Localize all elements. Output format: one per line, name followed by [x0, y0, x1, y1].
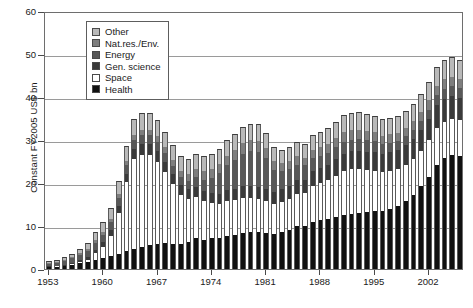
bar-segment: [302, 193, 308, 226]
bar-segment: [217, 149, 223, 164]
bar: [162, 132, 168, 269]
bar-segment: [310, 171, 316, 186]
bar-segment: [318, 168, 324, 183]
bar-segment: [193, 197, 199, 238]
bar-segment: [310, 150, 316, 158]
legend-swatch-icon: [92, 51, 100, 59]
bar: [147, 113, 153, 269]
bar-segment: [380, 119, 386, 135]
y-tick-label: 40: [0, 92, 36, 103]
bar-segment: [356, 112, 362, 130]
bar-segment: [263, 158, 269, 189]
bar-segment: [364, 152, 370, 170]
bar-segment: [186, 181, 192, 189]
bar-segment: [287, 169, 293, 185]
bar-segment: [449, 77, 455, 86]
x-tick-mark: [48, 270, 49, 275]
bar-segment: [147, 155, 153, 245]
bar-segment: [426, 110, 432, 119]
bar-segment: [434, 95, 440, 105]
bar-segment: [256, 152, 262, 187]
bar: [62, 257, 68, 269]
bar-segment: [418, 112, 424, 121]
bar: [449, 57, 455, 269]
bar-segment: [457, 120, 463, 156]
bar-segment: [442, 99, 448, 122]
bar: [155, 120, 161, 269]
bar-segment: [318, 220, 324, 269]
y-tick-label: 60: [0, 6, 36, 17]
bar-segment: [457, 88, 463, 97]
bar-segment: [349, 130, 355, 139]
legend-swatch-icon: [92, 28, 100, 36]
bar-segment: [248, 124, 254, 141]
bar-segment: [380, 144, 386, 154]
bar-segment: [403, 128, 409, 137]
legend-item: Health: [92, 84, 160, 96]
bar-segment: [426, 119, 432, 141]
legend-label: Gen. science: [105, 62, 160, 72]
bar-segment: [178, 244, 184, 269]
bar-segment: [209, 203, 215, 239]
bar-segment: [434, 86, 440, 95]
bar-segment: [248, 151, 254, 185]
bar-segment: [287, 199, 293, 230]
bar-segment: [263, 233, 269, 269]
x-tick-mark: [157, 270, 158, 275]
bar-segment: [426, 82, 432, 100]
legend-label: Nat.res./Env.: [105, 39, 159, 49]
bar-segment: [232, 134, 238, 150]
bar-segment: [395, 206, 401, 269]
bar: [349, 112, 355, 269]
bar: [434, 66, 440, 269]
bar-segment: [170, 244, 176, 269]
x-tick-label: 1974: [191, 276, 231, 287]
bar-segment: [193, 169, 199, 177]
bar-segment: [333, 159, 339, 176]
bar-segment: [310, 135, 316, 150]
bar-segment: [395, 150, 401, 169]
bar-segment: [271, 234, 277, 269]
bar-segment: [170, 184, 176, 244]
bar-segment: [193, 187, 199, 197]
stacked-bar-chart: Constant FY2005 US$ bn OtherNat.res./Env…: [0, 0, 473, 308]
bar: [426, 82, 432, 269]
bar-segment: [349, 151, 355, 169]
bar-segment: [418, 186, 424, 269]
bar-segment: [372, 171, 378, 212]
bar-segment: [418, 130, 424, 151]
bar-segment: [442, 122, 448, 159]
bar-segment: [186, 199, 192, 242]
legend-item: Nat.res./Env.: [92, 38, 160, 50]
y-tick-mark: [38, 98, 44, 99]
bar-segment: [294, 226, 300, 269]
x-tick-mark: [265, 270, 266, 275]
bar-segment: [279, 163, 285, 171]
bar-segment: [93, 260, 99, 269]
bar-segment: [201, 156, 207, 171]
bar-segment: [178, 185, 184, 195]
bar: [170, 145, 176, 269]
bar-segment: [318, 183, 324, 220]
bar-segment: [387, 152, 393, 170]
bar: [186, 159, 192, 269]
bar-segment: [356, 169, 362, 213]
bar-segment: [364, 114, 370, 131]
bar-segment: [232, 235, 238, 269]
bar-segment: [364, 140, 370, 151]
bar-segment: [287, 147, 293, 161]
bar-segment: [449, 86, 455, 96]
bar-segment: [256, 141, 262, 152]
bar-segment: [442, 60, 448, 80]
bar: [325, 128, 331, 269]
bar-segment: [380, 136, 386, 145]
bar-segment: [201, 180, 207, 191]
bar: [139, 113, 145, 269]
bar-segment: [387, 118, 393, 134]
bar-segment: [232, 200, 238, 235]
bar-segment: [325, 219, 331, 269]
bar-segment: [201, 191, 207, 201]
bar-segment: [387, 171, 393, 209]
bar-segment: [310, 186, 316, 221]
bar-segment: [449, 96, 455, 119]
